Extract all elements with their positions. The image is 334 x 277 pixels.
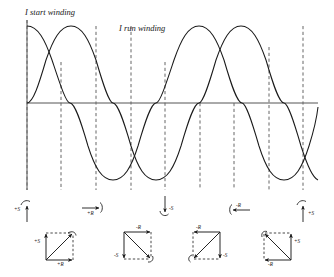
vector-diagram-2 (124, 232, 153, 262)
vector-diagram-3-horizontal-label: -R (196, 225, 201, 230)
vector-diagram-1-horizontal-label: +R (57, 262, 64, 267)
vector-diagram-4-horizontal-label: -R (268, 262, 273, 267)
vector-diagram-1 (46, 232, 76, 260)
vector-diagram-4-vertical-label: +S (294, 239, 300, 244)
vector-diagram-2-horizontal-label: -R (136, 225, 141, 230)
vector-diagram-4 (262, 231, 291, 260)
vector-diagram-2-vertical-label: -S (114, 253, 118, 258)
vector-diagram-3-vertical-label: -S (223, 253, 227, 258)
vector-diagram-1-vertical-label: +S (34, 239, 40, 244)
vector-diagram-3 (189, 232, 220, 262)
vector-diagrams (0, 0, 334, 277)
figure-canvas: I start winding I run winding (0, 0, 334, 277)
